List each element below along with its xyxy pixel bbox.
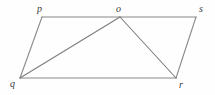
vertex-label-o: o bbox=[116, 4, 121, 14]
edge-group bbox=[20, 17, 196, 78]
vertex-label-r: r bbox=[179, 80, 183, 90]
edge-o-r bbox=[120, 17, 176, 78]
vertex-label-s: s bbox=[199, 4, 203, 14]
geometry-figure: posqr bbox=[0, 0, 215, 95]
edge-p-q bbox=[20, 17, 42, 78]
edge-q-o bbox=[20, 17, 120, 78]
vertex-label-q: q bbox=[10, 79, 15, 89]
edge-s-r bbox=[176, 17, 196, 78]
vertex-label-p: p bbox=[37, 4, 42, 14]
